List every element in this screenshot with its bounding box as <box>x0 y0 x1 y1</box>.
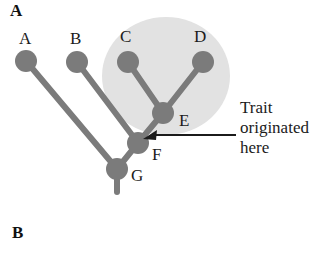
node-label-d: D <box>194 28 206 45</box>
trait-origin-annotation: Trait originated here <box>240 98 309 158</box>
node-label-e: E <box>179 112 189 129</box>
node-g[interactable] <box>106 158 128 180</box>
annotation-line-1: Trait <box>240 98 309 118</box>
node-e[interactable] <box>152 102 174 124</box>
node-f[interactable] <box>127 132 149 154</box>
node-label-g: G <box>131 167 143 184</box>
node-label-a: A <box>19 30 31 47</box>
node-c[interactable] <box>117 51 139 73</box>
node-label-c: C <box>120 28 131 45</box>
panel-a-label: A <box>10 2 22 19</box>
node-label-b: B <box>70 30 81 47</box>
panel-b-label: B <box>12 224 23 241</box>
node-label-f: F <box>152 146 161 163</box>
annotation-line-2: originated <box>240 118 309 138</box>
node-b[interactable] <box>66 51 88 73</box>
annotation-line-3: here <box>240 138 309 158</box>
node-d[interactable] <box>192 51 214 73</box>
node-a[interactable] <box>15 50 37 72</box>
